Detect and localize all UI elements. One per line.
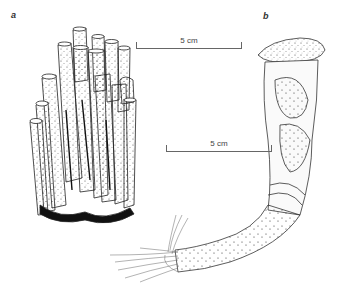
panel-label-a: a: [11, 10, 16, 20]
panel-b-drawing: [110, 38, 325, 282]
scale-bar-b: 5 cm: [166, 145, 272, 152]
panel-a-drawing: [30, 27, 136, 223]
scale-bar-a: 5 cm: [136, 42, 242, 49]
panel-label-b: b: [263, 11, 269, 21]
scale-bar-b-label: 5 cm: [167, 139, 271, 148]
scale-bar-a-label: 5 cm: [137, 36, 241, 45]
